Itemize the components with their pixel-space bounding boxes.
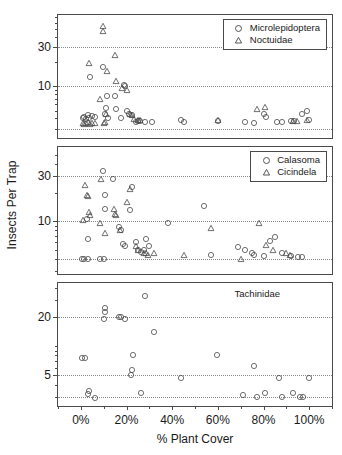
y-tick-label: 20 <box>38 310 51 324</box>
data-point-triangle <box>269 246 276 253</box>
data-point-triangle <box>126 111 133 118</box>
data-point-circle <box>132 239 139 246</box>
data-point-circle <box>99 167 106 174</box>
triangle-marker-icon <box>228 36 250 45</box>
data-point-circle <box>132 119 139 126</box>
data-point-circle <box>242 246 249 253</box>
y-minor-tick <box>55 288 58 289</box>
data-point-triangle <box>82 181 89 188</box>
data-point-triangle <box>140 250 147 257</box>
data-point-triangle <box>123 86 130 93</box>
y-minor-tick <box>55 104 58 105</box>
data-point-circle <box>78 355 85 362</box>
y-minor-tick <box>55 355 58 356</box>
data-point-triangle <box>84 192 91 199</box>
circle-marker-icon <box>228 24 250 33</box>
data-point-circle <box>262 113 269 120</box>
data-point-triangle <box>97 95 104 102</box>
x-tick-label: 0% <box>72 413 89 427</box>
circle-marker-icon <box>255 156 277 165</box>
y-tick-label: 30 <box>38 169 51 183</box>
data-point-circle <box>138 248 145 255</box>
data-point-circle <box>148 119 155 126</box>
data-point-circle <box>251 252 258 259</box>
data-point-triangle <box>290 118 297 125</box>
y-minor-tick <box>55 385 58 386</box>
x-major-tick <box>264 406 265 410</box>
gridline <box>58 375 332 376</box>
data-point-triangle <box>293 118 300 125</box>
data-point-triangle <box>112 52 119 59</box>
data-point-triangle <box>85 209 92 216</box>
gridline <box>58 86 332 87</box>
data-point-circle <box>84 112 91 119</box>
y-minor-tick <box>55 230 58 231</box>
data-point-circle <box>85 388 92 395</box>
y-major-tick <box>53 86 58 87</box>
data-point-triangle <box>145 252 152 259</box>
data-point-triangle <box>110 205 117 212</box>
data-point-circle <box>129 112 136 119</box>
gridline <box>58 221 332 222</box>
y-tick-label: 30 <box>38 40 51 54</box>
data-point-circle <box>235 243 242 250</box>
data-point-circle <box>242 119 249 126</box>
legend-label: Calasoma <box>277 154 320 166</box>
data-point-triangle <box>137 117 144 124</box>
x-minor-tick <box>58 406 59 409</box>
data-point-circle <box>261 389 268 396</box>
data-point-circle <box>251 362 258 369</box>
data-point-circle <box>84 236 91 243</box>
y-minor-tick <box>55 300 58 301</box>
data-point-triangle <box>150 250 157 257</box>
y-minor-tick <box>55 368 58 369</box>
panel-3-title: Tachinidae <box>235 288 280 299</box>
data-point-circle <box>122 243 129 250</box>
data-point-circle <box>113 105 120 112</box>
data-point-triangle <box>112 210 119 217</box>
data-point-circle <box>267 238 274 245</box>
y-minor-tick <box>55 155 58 156</box>
data-point-triangle <box>83 120 90 127</box>
data-point-triangle <box>131 116 138 123</box>
legend-entry: Cicindela <box>255 166 320 178</box>
y-minor-tick <box>55 129 58 130</box>
data-point-triangle <box>123 198 130 205</box>
data-point-triangle <box>113 212 120 219</box>
data-point-triangle <box>85 119 92 126</box>
y-minor-tick <box>55 37 58 38</box>
data-point-triangle <box>91 120 98 127</box>
y-minor-tick <box>55 90 58 91</box>
data-point-circle <box>102 205 109 212</box>
y-minor-tick <box>55 226 58 227</box>
y-minor-tick <box>55 236 58 237</box>
data-point-triangle <box>86 121 93 128</box>
data-point-triangle <box>85 60 92 67</box>
y-minor-tick <box>55 242 58 243</box>
data-point-circle <box>274 119 281 126</box>
data-point-circle <box>91 113 98 120</box>
data-point-circle <box>180 119 187 126</box>
x-minor-tick <box>241 406 242 409</box>
data-point-circle <box>207 252 214 259</box>
x-major-tick <box>309 406 310 410</box>
data-point-circle <box>101 304 108 311</box>
y-tick-label: 10 <box>38 214 51 228</box>
data-point-triangle <box>286 252 293 259</box>
data-point-circle <box>201 202 208 209</box>
data-point-triangle <box>134 117 141 124</box>
data-point-triangle <box>89 120 96 127</box>
y-minor-tick <box>55 111 58 112</box>
y-minor-tick <box>55 259 58 260</box>
data-point-circle <box>89 112 96 119</box>
data-point-triangle <box>100 120 107 127</box>
data-point-triangle <box>303 117 310 124</box>
y-major-tick <box>53 47 58 48</box>
y-minor-tick <box>55 346 58 347</box>
data-point-triangle <box>142 250 149 257</box>
y-tick-label: 5 <box>44 368 51 382</box>
data-point-circle <box>271 234 278 241</box>
data-point-circle <box>278 119 285 126</box>
data-point-circle <box>117 115 124 122</box>
data-point-circle <box>291 118 298 125</box>
